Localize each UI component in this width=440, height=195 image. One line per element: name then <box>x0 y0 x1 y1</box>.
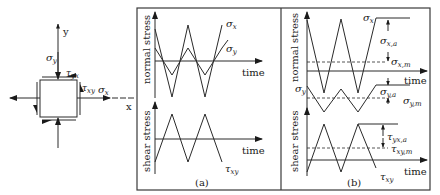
panel-b-time-label-bottom: time <box>404 166 427 177</box>
panel-a-shear-ylabel: shear stress <box>141 110 152 172</box>
panel-b-normal-ylabel: normal stress <box>289 13 300 82</box>
panel-a-tau-xy-label: τxy <box>225 163 239 176</box>
panel-b-caption: (b) <box>347 177 361 188</box>
panel-b-sigma-x-a-label: σx,a <box>380 35 397 48</box>
panel-b-sigma-y-label: σy <box>295 83 307 96</box>
sigma-x-label: σx <box>98 84 109 97</box>
tau-xy-left-arrowhead <box>33 105 37 113</box>
panel-b-tau-xy-tail <box>358 124 376 168</box>
panel-a-time-label-bottom: time <box>242 145 265 156</box>
panel-b-tau-xy-m-label: τxy,m <box>391 143 413 156</box>
element-square <box>40 80 77 117</box>
panel-b-shear-ylabel: shear stress <box>289 110 300 172</box>
stress-diagram-figure: y x σy τyx τxy σx normal stress <box>0 0 440 195</box>
tau-yx-label: τyx <box>66 68 79 80</box>
panel-b-tau-xy-label: τxy <box>380 171 394 184</box>
panel-b-sigma-x-label: σx <box>363 12 374 25</box>
panel-b: normal stress time σx σx,a σx,m σy σy,a … <box>289 12 427 188</box>
panel-b-tau-xy-a-label: τyx,a <box>387 131 407 144</box>
panel-a-caption: (a) <box>195 177 209 188</box>
panel-b-sigma-x-m-label: σx,m <box>391 56 411 69</box>
panel-a: normal stress time σx σy shear stress ti… <box>141 12 265 188</box>
panel-b-sigma-y-m-label: σy,m <box>403 95 422 108</box>
x-axis-label: x <box>126 101 132 112</box>
panel-b-time-label-top: time <box>404 75 427 86</box>
tau-yx-bottom-arrowhead <box>42 120 52 124</box>
tau-xy-label: τxy <box>82 83 96 95</box>
panel-a-sigma-x-label: σx <box>226 18 237 31</box>
stress-element: y x σy τyx τxy σx <box>10 24 135 148</box>
panel-a-time-label-top: time <box>242 67 265 78</box>
panel-b-sigma-y-a-label: σy,a <box>380 86 396 99</box>
y-axis-label: y <box>62 26 69 37</box>
sigma-y-label: σy <box>46 52 58 65</box>
panel-a-tau-xy-curve <box>155 114 222 162</box>
panel-a-normal-ylabel: normal stress <box>141 15 152 84</box>
panel-a-sigma-y-label: σy <box>226 43 238 56</box>
